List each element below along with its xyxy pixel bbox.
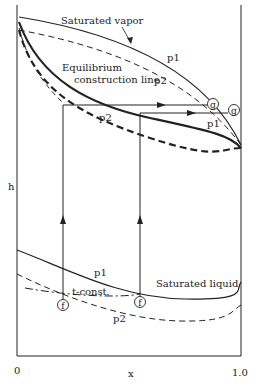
pointer-arrow-icon <box>127 37 133 44</box>
up-arrow-icon <box>137 215 143 224</box>
liquid-p1-label: p1 <box>94 267 107 278</box>
saturated-liquid-label: Saturated liquid <box>156 278 239 289</box>
liquid-p2-label: p2 <box>113 313 126 324</box>
y-axis-label: h <box>8 181 15 192</box>
up-arrow-icon <box>60 215 66 224</box>
x-tick-1: 1.0 <box>232 367 248 378</box>
f-marker-1: f <box>58 300 69 311</box>
vapor-p1-label: p1 <box>167 52 180 63</box>
equilibrium-label-line2: construction line <box>74 74 160 85</box>
h-x-diagram: g g f f Saturated vapor p1 p2 Equilibriu… <box>0 0 254 388</box>
equilibrium-label-line1: Equilibrium <box>62 62 123 73</box>
g-marker-1: g <box>208 99 219 110</box>
equilibrium-p2-label: p2 <box>99 112 112 123</box>
g-marker-label: g <box>231 106 237 116</box>
equilibrium-construction-p2-curve <box>19 30 241 152</box>
right-arrow-icon <box>187 110 196 116</box>
right-arrow-icon <box>157 102 166 108</box>
f-marker-2: f <box>135 297 146 308</box>
x-tick-0: 0 <box>14 365 20 376</box>
axes <box>17 5 241 356</box>
x-axis-label: x <box>128 368 134 379</box>
equilibrium-p1-label: p1 <box>207 118 220 129</box>
saturated-vapor-label: Saturated vapor <box>61 15 144 26</box>
g-marker-label: g <box>210 100 216 110</box>
saturated-liquid-p1-curve <box>17 250 241 299</box>
t-const-label: t-const. <box>72 286 110 297</box>
g-marker-2: g <box>229 105 240 116</box>
